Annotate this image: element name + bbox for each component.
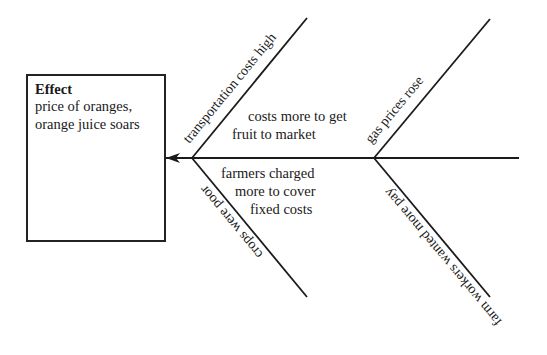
note-upper: costs more to get fruit to market bbox=[232, 107, 347, 143]
note-upper-line-1: costs more to get bbox=[232, 107, 347, 125]
note-lower-line-1: farmers charged bbox=[221, 164, 316, 182]
note-upper-line-2: fruit to market bbox=[232, 125, 347, 143]
effect-line-2: orange juice soars bbox=[35, 115, 140, 133]
bone-upper-right bbox=[374, 19, 490, 158]
effect-line-1: price of oranges, bbox=[35, 97, 140, 115]
note-lower: farmers charged more to cover fixed cost… bbox=[221, 164, 316, 218]
note-lower-line-3: fixed costs bbox=[221, 200, 316, 218]
bone-lower-right bbox=[374, 158, 490, 297]
effect-description: price of oranges, orange juice soars bbox=[35, 97, 140, 133]
effect-box: Effect price of oranges, orange juice so… bbox=[26, 74, 166, 242]
note-lower-line-2: more to cover bbox=[221, 182, 316, 200]
effect-title: Effect bbox=[35, 80, 72, 98]
